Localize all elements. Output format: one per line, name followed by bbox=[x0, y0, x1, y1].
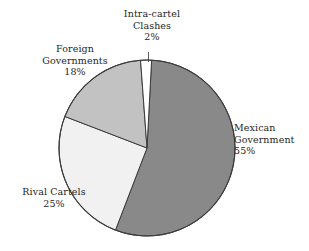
slice-label-value: 55% bbox=[234, 145, 308, 157]
pie-slice-group bbox=[59, 60, 235, 236]
slice-label-line-1: Mexican bbox=[234, 122, 308, 134]
slice-label-line-2: Government bbox=[234, 134, 308, 146]
slice-label-line-1: Intra-cartel bbox=[104, 8, 200, 20]
slice-label-line-2: Clashes bbox=[104, 20, 200, 32]
slice-label-value: 18% bbox=[22, 66, 128, 78]
slice-label-rival-cartels: Rival Cartels 25% bbox=[2, 186, 106, 209]
slice-label-foreign-governments: Foreign Governments 18% bbox=[22, 43, 128, 78]
slice-label-value: 2% bbox=[104, 31, 200, 43]
slice-label-line-1: Rival Cartels bbox=[2, 186, 106, 198]
pie-chart: Intra-cartel Clashes 2% Foreign Governme… bbox=[0, 0, 309, 251]
slice-label-mexican-government: Mexican Government 55% bbox=[234, 122, 308, 157]
slice-label-line-2: Governments bbox=[22, 55, 128, 67]
slice-label-intra-cartel-clashes: Intra-cartel Clashes 2% bbox=[104, 8, 200, 43]
slice-label-value: 25% bbox=[2, 198, 106, 210]
slice-label-line-1: Foreign bbox=[22, 43, 128, 55]
